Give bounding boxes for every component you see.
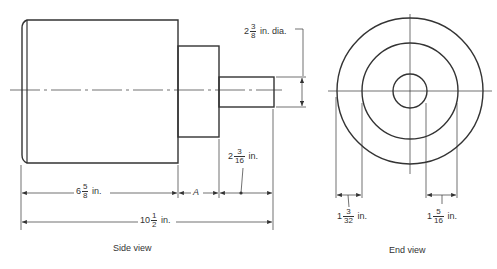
left-gap-label: 1332 in. — [337, 208, 367, 225]
total-len-label: 1012 in. — [140, 212, 171, 229]
body-outline — [22, 20, 178, 163]
technical-drawing — [0, 0, 497, 269]
side-view-caption: Side view — [113, 243, 152, 253]
shaft-len-label: 2316 in. — [228, 148, 258, 165]
body-len-label: 658 in. — [76, 183, 102, 200]
shaft-dia-label: 238 in. dia. — [244, 23, 287, 40]
step-outline — [178, 46, 219, 137]
shaft-outline — [219, 77, 274, 107]
step-len-label: A — [193, 187, 199, 197]
right-gap-label: 1516 in. — [427, 208, 457, 225]
end-view-caption: End view — [389, 245, 426, 255]
